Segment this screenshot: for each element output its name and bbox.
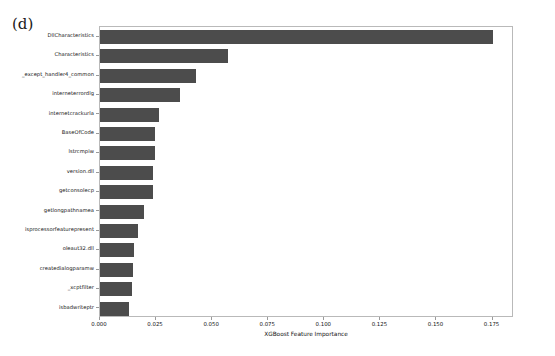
y-axis-tick-label: oleaut32.dll xyxy=(63,239,94,258)
x-axis-tick-mark xyxy=(379,317,380,320)
bar xyxy=(100,224,138,238)
x-axis-tick-label: 0.125 xyxy=(372,321,387,327)
bar xyxy=(100,185,153,199)
x-axis-tick-mark xyxy=(267,317,268,320)
xgboost-feature-importance-figure: (d) DllCharacteristicsCharacteristics_ex… xyxy=(0,0,555,356)
bar xyxy=(100,146,155,160)
x-axis-tick-mark xyxy=(435,317,436,320)
bar xyxy=(100,30,493,44)
y-axis-tick-label: _xcptfilter xyxy=(68,278,94,297)
x-axis-tick-label: 0.025 xyxy=(147,321,162,327)
y-axis-tick-label: isbadwriteptr xyxy=(59,298,94,317)
y-axis-tick-label: version.dll xyxy=(67,162,94,181)
bar xyxy=(100,205,144,219)
y-axis-tick-label: interneterrordlg xyxy=(52,84,94,103)
bar xyxy=(100,108,159,122)
y-axis-tick-label: Characteristics xyxy=(54,45,94,64)
y-axis-tick-label: DllCharacteristics xyxy=(47,26,94,45)
y-axis-tick-label: lstrcmpiw xyxy=(68,142,94,161)
y-axis-tick-label: createdialogparamw xyxy=(40,259,94,278)
bar xyxy=(100,166,153,180)
y-axis-tick-label: getconsolecp xyxy=(59,181,94,200)
bar-series xyxy=(100,27,512,316)
bar xyxy=(100,69,196,83)
x-axis-tick-mark xyxy=(323,317,324,320)
y-axis-tick-label: isprocessorfeaturepresent xyxy=(25,220,94,239)
y-axis-tick-labels: DllCharacteristicsCharacteristics_except… xyxy=(0,26,99,317)
x-axis-tick-label: 0.100 xyxy=(316,321,331,327)
x-axis-tick-label: 0.050 xyxy=(203,321,218,327)
x-axis-tick-label: 0.000 xyxy=(91,321,106,327)
x-axis-title: XGBoost Feature Importance xyxy=(99,331,513,337)
x-axis-tick-label: 0.175 xyxy=(484,321,499,327)
bar xyxy=(100,88,180,102)
x-axis-tick-label: 0.075 xyxy=(260,321,275,327)
plot-area xyxy=(99,26,513,317)
bar xyxy=(100,127,155,141)
bar xyxy=(100,302,129,316)
y-axis-tick-label: _except_handler4_common xyxy=(22,65,94,84)
x-axis-tick-label: 0.150 xyxy=(428,321,443,327)
x-axis-tick-mark xyxy=(99,317,100,320)
bar xyxy=(100,263,133,277)
y-axis-tick-label: getlongpathnamea xyxy=(44,201,94,220)
x-axis-tick-mark xyxy=(155,317,156,320)
y-axis-tick-label: internetcrackurla xyxy=(49,104,94,123)
x-axis-tick-mark xyxy=(492,317,493,320)
x-axis-tick-mark xyxy=(211,317,212,320)
y-axis-tick-label: BaseOfCode xyxy=(62,123,94,142)
bar xyxy=(100,282,132,296)
bar xyxy=(100,243,134,257)
bar xyxy=(100,49,228,63)
